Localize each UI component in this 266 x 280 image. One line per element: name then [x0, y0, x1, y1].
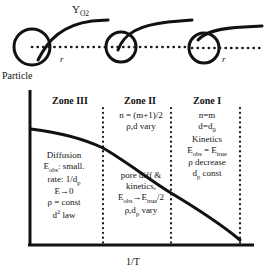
zone2-top-line-0: n = (m+1)/2	[106, 110, 176, 121]
zone1-line-4: ρ decrease	[174, 157, 240, 168]
zone3-line-1: Eobs: small.	[26, 161, 102, 174]
radius-label-1: r	[60, 55, 64, 64]
zone2-top-line-1: ρ,d vary	[106, 121, 176, 132]
zone-header-1: Zone I	[178, 96, 236, 106]
schematic-svg	[0, 0, 266, 90]
zone1-line-5: dp const	[174, 168, 240, 181]
zone-body-3: Diffusion Eobs: small. rate: 1/dp E→0 ρ …	[26, 150, 102, 221]
figure-root: YO2 Particle r r Zone III Zone II Zone I	[0, 0, 266, 280]
zone-body-2-top: n = (m+1)/2 ρ,d vary	[106, 110, 176, 132]
zone1-line-2: Kinetics	[174, 134, 240, 145]
zone1-line-1: d=d0	[174, 121, 240, 134]
particle-circle-2	[106, 32, 136, 62]
species-label-sub: O2	[80, 9, 89, 18]
zone3-line-2: rate: 1/dp	[26, 174, 102, 187]
zone3-line-4: ρ = const	[26, 197, 102, 208]
zone2-line-3: ρ,dp vary	[104, 205, 178, 218]
zone2-line-2: Eobs→Etrue/2	[104, 192, 178, 205]
zone3-line-5: d2 law	[26, 208, 102, 221]
zone-header-3: Zone III	[38, 96, 102, 106]
zone2-line-0: pore diff &	[104, 170, 178, 181]
zone-body-1: n=m d=d0 Kinetics Eobs = Etrue ρ decreas…	[174, 110, 240, 181]
zone-body-2: pore diff & kinetics, Eobs→Etrue/2 ρ,dp …	[104, 170, 178, 217]
zone-header-2: Zone II	[110, 96, 170, 106]
zone1-line-0: n=m	[174, 110, 240, 121]
zone1-line-3: Eobs = Etrue	[174, 145, 240, 158]
particle-label: Particle	[2, 71, 33, 81]
zone2-line-1: kinetics,	[104, 181, 178, 192]
species-label-main: Y	[72, 3, 80, 15]
particle-schematic: YO2 Particle r r	[0, 0, 266, 90]
zone3-line-0: Diffusion	[26, 150, 102, 161]
zone3-line-3: E→0	[26, 186, 102, 197]
x-axis-label: 1/T	[0, 256, 266, 267]
zone-chart: Zone III Zone II Zone I Diffusion Eobs: …	[0, 88, 266, 280]
species-label: YO2	[72, 4, 89, 18]
radius-label-3: r	[222, 55, 226, 64]
